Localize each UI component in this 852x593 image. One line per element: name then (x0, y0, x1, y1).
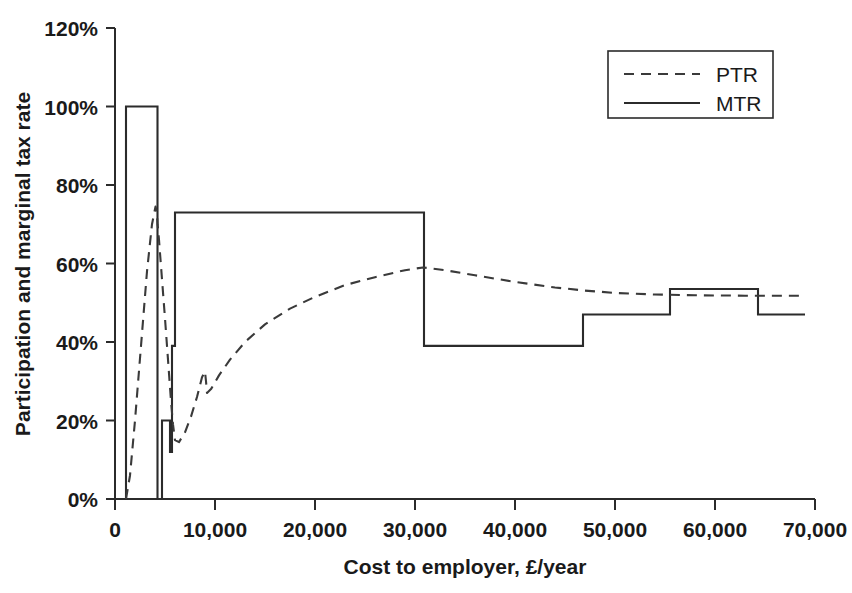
legend: PTR MTR (608, 51, 773, 118)
series-line-ptr (126, 207, 805, 499)
y-axis-title: Participation and marginal tax rate (11, 92, 34, 436)
y-axis-tick-labels: 0%20%40%60%80%100%120% (44, 17, 98, 511)
x-tick-label: 70,000 (783, 518, 847, 541)
y-tick-label: 100% (44, 96, 98, 119)
chart-container: 0%20%40%60%80%100%120% 010,00020,00030,0… (0, 0, 852, 593)
y-tick-label: 120% (44, 17, 98, 40)
x-axis-title: Cost to employer, £/year (344, 555, 587, 578)
x-tick-label: 60,000 (683, 518, 747, 541)
y-axis-ticks (106, 28, 115, 499)
legend-label-ptr: PTR (716, 63, 758, 86)
x-tick-label: 10,000 (183, 518, 247, 541)
x-tick-label: 40,000 (483, 518, 547, 541)
y-tick-label: 80% (56, 174, 98, 197)
series-line-mtr (115, 107, 805, 500)
y-tick-label: 60% (56, 253, 98, 276)
x-tick-label: 20,000 (283, 518, 347, 541)
x-tick-label: 50,000 (583, 518, 647, 541)
x-axis-ticks (115, 499, 815, 510)
y-tick-label: 0% (68, 488, 99, 511)
x-tick-label: 30,000 (383, 518, 447, 541)
y-tick-label: 20% (56, 410, 98, 433)
legend-label-mtr: MTR (716, 92, 762, 115)
tax-rate-line-chart: 0%20%40%60%80%100%120% 010,00020,00030,0… (0, 0, 852, 593)
y-tick-label: 40% (56, 331, 98, 354)
x-axis-tick-labels: 010,00020,00030,00040,00050,00060,00070,… (109, 518, 847, 541)
x-tick-label: 0 (109, 518, 121, 541)
